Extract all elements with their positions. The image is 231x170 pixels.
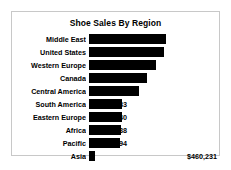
bar-row: Middle East$5,631,779 (12, 34, 219, 47)
bar-category-label: Middle East (12, 34, 86, 45)
bar-value-label: $2,296,794 (91, 138, 127, 149)
bar-category-label: Asia (12, 151, 86, 162)
bar-row: Canada$4,255,712 (12, 73, 219, 86)
bar-category-label: Africa (12, 125, 86, 136)
chart-frame: Shoe Sales By Region Middle East$5,631,7… (11, 11, 220, 156)
bar-value-label: $4,255,712 (91, 73, 127, 84)
bar-row: Central America$3,657,753 (12, 86, 219, 99)
bar-row: Asia$460,231 (12, 151, 219, 164)
bar-fill (89, 151, 95, 161)
bar-category-label: South America (12, 99, 86, 110)
bar-value-label: $2,342,588 (91, 125, 127, 136)
bar-row: Pacific$2,296,794 (12, 138, 219, 151)
bar-row: Eastern Europe$2,394,940 (12, 112, 219, 125)
bar-category-label: Central America (12, 86, 86, 97)
bar-row: Western Europe$4,873,000 (12, 60, 219, 73)
bar-category-label: Eastern Europe (12, 112, 86, 123)
chart-title: Shoe Sales By Region (12, 18, 219, 28)
bar-category-label: Canada (12, 73, 86, 84)
bar-value-label: $3,657,753 (91, 86, 127, 97)
bar-value-label: $2,394,940 (91, 112, 127, 123)
bar-value-label: $5,503,986 (91, 47, 127, 58)
bar-chart-plot-area: Middle East$5,631,779United States$5,503… (12, 34, 219, 164)
bar-value-label: $4,873,000 (91, 60, 127, 71)
bar-row: Africa$2,342,588 (12, 125, 219, 138)
bar-category-label: Western Europe (12, 60, 86, 71)
bar-value-label: $2,434,783 (91, 99, 127, 110)
bar-category-label: Pacific (12, 138, 86, 149)
bar-row: South America$2,434,783 (12, 99, 219, 112)
bar-category-label: United States (12, 47, 86, 58)
bar-value-label: $5,631,779 (91, 34, 127, 45)
bar-row: United States$5,503,986 (12, 47, 219, 60)
bar-value-label: $460,231 (187, 151, 217, 162)
